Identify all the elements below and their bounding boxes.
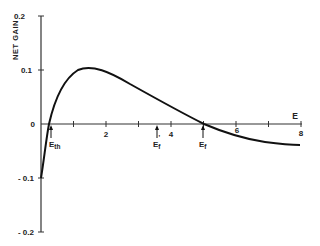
- chart-svg: 0.2 0.1 0 - 0.1 - 0.2 NET GAIN 2 4 6 8 E…: [0, 0, 320, 246]
- ef-subscript: f: [204, 143, 207, 150]
- eth-subscript: th: [54, 143, 60, 150]
- y-tick-label: 0.1: [21, 66, 33, 75]
- x-axis-title: E: [292, 111, 298, 121]
- y-tick-label: 0.2: [14, 12, 26, 21]
- x-tick-label: 8: [299, 129, 304, 138]
- eth-marker: Eth: [49, 125, 61, 150]
- net-gain-chart: 0.2 0.1 0 - 0.1 - 0.2 NET GAIN 2 4 6 8 E…: [0, 0, 320, 246]
- y-axis-title: NET GAIN: [11, 20, 20, 60]
- ef-prime-marker: Ef ': [153, 125, 161, 150]
- svg-text:Eth: Eth: [49, 140, 61, 150]
- prime-mark: ': [159, 134, 161, 141]
- x-tick-label: 2: [104, 130, 109, 139]
- ef-prime-subscript: f: [158, 143, 161, 150]
- y-tick-label: - 0.2: [18, 228, 35, 237]
- y-tick-label: - 0.1: [18, 174, 35, 183]
- ef-marker: Ef: [199, 125, 207, 150]
- y-tick-label: 0: [31, 120, 36, 129]
- x-tick-label: 6: [235, 126, 240, 135]
- svg-text:Ef: Ef: [199, 140, 207, 150]
- svg-text:Ef: Ef: [153, 140, 161, 150]
- x-tick-label: 4: [169, 130, 174, 139]
